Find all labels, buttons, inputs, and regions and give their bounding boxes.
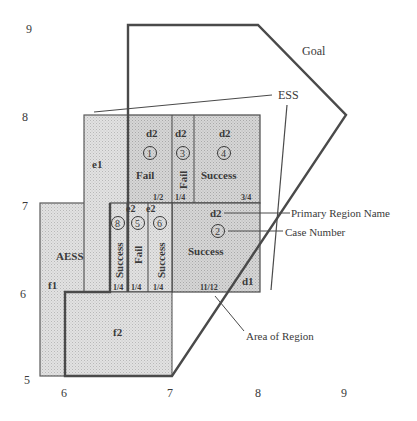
case-5-area: 1/4 [131,283,141,292]
case-8-result: Success [113,242,125,278]
case-number-label: Case Number [285,226,346,238]
y-tick-7: 7 [22,199,28,213]
x-tick-8: 8 [255,386,261,400]
case-8-number: 8 [115,218,120,229]
case-1-result: Fail [136,169,154,181]
case-5-number: 5 [135,218,140,229]
case-4-region: d2 [219,127,231,139]
case-4-area: 3/4 [241,193,251,202]
case-8-area: 1/4 [113,283,123,292]
case-2-result: Success [188,245,224,257]
case-3-area: 1/4 [175,193,185,202]
f2-label: f2 [113,326,123,338]
y-tick-9: 9 [26,22,32,36]
x-tick-6: 6 [61,386,67,400]
f1-label: f1 [48,279,57,291]
case-3-number: 3 [180,148,185,159]
case-1-number: 1 [147,148,152,159]
case-2-region: d2 [210,207,222,219]
y-tick-6: 6 [20,287,26,301]
case-2-area: 11/12 [200,283,218,292]
x-axis-labels: 6 7 8 9 [61,386,347,400]
goal-label: Goal [302,44,326,58]
case-5-result: Fail [132,246,144,264]
ess-label: ESS [278,88,299,102]
case-6-region: e2 [146,203,155,214]
case-1-area: 1/2 [153,193,163,202]
case-5-region: e2 [126,203,135,214]
e1-label: e1 [92,158,102,170]
d1-label: d1 [242,275,254,287]
case-6-number: 6 [157,218,162,229]
case-3-region: d2 [175,127,187,139]
case-4-result: Success [201,169,237,181]
case-4-number: 4 [221,148,226,159]
region-diagram: 9 8 7 6 5 6 7 8 9 Goal ESS AESS Primary … [0,0,417,421]
case-6-area: 1/4 [153,283,163,292]
x-tick-9: 9 [341,386,347,400]
case-2-number: 2 [215,226,220,237]
y-axis-labels: 9 8 7 6 5 [20,22,32,387]
x-tick-7: 7 [167,386,173,400]
case-3-result: Fail [177,171,189,189]
aess-label: AESS [56,250,84,262]
area-of-region-label: Area of Region [246,330,314,342]
case-1-region: d2 [146,127,158,139]
y-tick-8: 8 [22,110,28,124]
y-tick-5: 5 [24,373,30,387]
case-6-result: Success [155,242,167,278]
primary-region-name-label: Primary Region Name [291,207,390,219]
